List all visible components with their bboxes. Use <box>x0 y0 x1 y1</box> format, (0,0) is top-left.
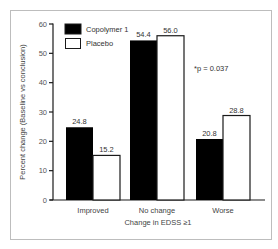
data-label-placebo: 56.0 <box>163 26 178 35</box>
data-label-copolymer-1: 24.8 <box>72 117 87 126</box>
bar-placebo <box>93 155 120 200</box>
y-tick-label: 40 <box>39 78 47 87</box>
y-axis-title: Percent change (Baseline vs conclusion) <box>18 44 27 180</box>
data-label-placebo: 15.2 <box>99 145 114 154</box>
bar-copolymer-1 <box>196 139 223 200</box>
x-category-label: Improved <box>77 206 108 215</box>
bar-copolymer-1 <box>66 127 93 200</box>
y-tick-label: 0 <box>43 196 47 205</box>
legend-label-copolymer-1: Copolymer 1 <box>86 25 129 34</box>
x-axis-title: Change in EDSS ≥1 <box>124 218 191 227</box>
data-label-placebo: 28.8 <box>229 106 244 115</box>
bar-placebo <box>223 116 250 200</box>
data-label-copolymer-1: 20.8 <box>202 129 217 138</box>
y-tick-label: 50 <box>39 49 47 58</box>
data-label-copolymer-1: 54.4 <box>136 30 151 39</box>
legend-swatch-copolymer-1 <box>65 24 81 34</box>
legend-swatch-placebo <box>66 39 81 49</box>
legend-item-copolymer-1: Copolymer 1 <box>65 24 129 34</box>
bar-chart: Percent change (Baseline vs conclusion) … <box>0 0 278 249</box>
p-value-annotation: *p = 0.037 <box>194 64 228 73</box>
legend-label-placebo: Placebo <box>86 39 113 48</box>
bar-copolymer-1 <box>130 40 157 200</box>
y-tick-label: 30 <box>39 108 47 117</box>
x-category-label: No change <box>139 206 175 215</box>
y-tick-label: 10 <box>39 166 47 175</box>
y-tick-label: 20 <box>39 137 47 146</box>
bar-placebo <box>157 36 184 200</box>
legend-item-placebo: Placebo <box>66 39 114 49</box>
x-category-label: Worse <box>212 206 234 215</box>
y-tick-label: 60 <box>39 20 47 29</box>
